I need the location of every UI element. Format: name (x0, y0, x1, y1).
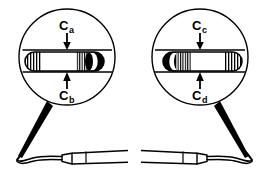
label-cc-base: C (192, 18, 202, 33)
right-blade-hatch-near (176, 52, 191, 71)
right-instrument-collar (197, 153, 207, 164)
left-arrow-down (63, 33, 71, 50)
left-inset-group: C a C b (18, 9, 115, 158)
label-cd-subscript: d (202, 95, 208, 105)
left-blade-cap-inner (85, 53, 93, 71)
label-ca-base: C (59, 18, 69, 33)
right-instrument-handle-bottom (141, 162, 197, 164)
right-arrow-down (196, 33, 204, 50)
dental-scaler-right (141, 150, 252, 164)
right-inset-group: C c C d (152, 9, 249, 158)
leader-wedge-left (18, 101, 53, 158)
figure-svg: C a C b (0, 0, 269, 176)
dental-scaler-left (17, 150, 128, 164)
label-cd-base: C (192, 88, 202, 103)
label-cb: C b (59, 88, 75, 105)
right-instrument-handle-top (141, 151, 197, 154)
label-cc-subscript: c (202, 25, 207, 35)
label-cd: C d (192, 88, 208, 105)
figure-container: C a C b (0, 0, 269, 176)
label-ca-subscript: a (69, 25, 75, 35)
label-ca: C a (59, 18, 75, 35)
left-instrument-collar (62, 153, 72, 164)
label-cc: C c (192, 18, 207, 35)
left-instrument-handle-bottom (72, 162, 128, 164)
left-instrument-handle-top (72, 151, 128, 154)
label-cb-base: C (59, 88, 69, 103)
left-arrow-up (63, 72, 71, 89)
right-arrow-up (196, 72, 204, 89)
label-cb-subscript: b (69, 95, 75, 105)
